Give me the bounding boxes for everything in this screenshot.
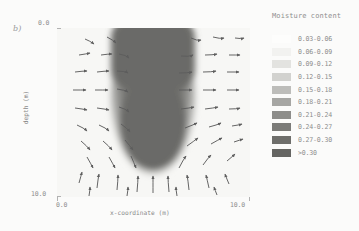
legend-entry: 0.03-0.06	[272, 33, 358, 46]
legend-entry-label: 0.27-0.30	[298, 136, 332, 144]
legend-color-swatch	[272, 136, 291, 144]
legend-entry: 0.27-0.30	[272, 134, 358, 147]
legend-color-swatch	[272, 149, 291, 157]
legend-entry: 0.09-0.12	[272, 58, 358, 71]
legend-color-swatch	[272, 123, 291, 131]
legend-entry-list: 0.03-0.060.06-0.090.09-0.120.12-0.150.15…	[272, 33, 358, 159]
x-axis-tick-right: 10.0	[230, 201, 245, 209]
contour-vector-plot	[57, 28, 250, 197]
legend-entry-label: 0.24-0.27	[298, 123, 332, 131]
legend-entry-label: 0.12-0.15	[298, 73, 332, 81]
legend-color-swatch	[272, 86, 291, 94]
legend-title: Moisture content	[272, 12, 358, 20]
legend-entry: 0.24-0.27	[272, 121, 358, 134]
legend-color-swatch	[272, 60, 291, 68]
plot-area	[57, 28, 250, 197]
panel-label: b)	[13, 24, 22, 33]
moisture-content-figure: b)	[0, 0, 359, 231]
legend-entry: 0.15-0.18	[272, 83, 358, 96]
legend-entry-label: 0.18-0.21	[298, 98, 332, 106]
legend-entry-label: 0.21-0.24	[298, 111, 332, 119]
legend-entry: 0.21-0.24	[272, 109, 358, 122]
legend-color-swatch	[272, 73, 291, 81]
y-axis-label: depth (m)	[22, 78, 29, 138]
x-axis-tick-left: 0.0	[56, 201, 67, 209]
legend-entry-label: 0.09-0.12	[298, 60, 332, 68]
x-axis-label: x-coordinate (m)	[110, 209, 170, 216]
legend-color-swatch	[272, 98, 291, 106]
legend: Moisture content 0.03-0.060.06-0.090.09-…	[272, 12, 358, 159]
legend-color-swatch	[272, 35, 291, 43]
y-axis-tick-bottom: 10.0	[31, 190, 46, 198]
legend-entry: 0.12-0.15	[272, 71, 358, 84]
legend-color-swatch	[272, 111, 291, 119]
legend-entry: 0.18-0.21	[272, 96, 358, 109]
tickmark-y-top	[57, 28, 61, 29]
legend-color-swatch	[272, 48, 291, 56]
legend-entry: 0.06-0.09	[272, 46, 358, 59]
legend-entry-label: 0.03-0.06	[298, 35, 332, 43]
legend-entry-label: >0.30	[298, 149, 317, 157]
tickmark-x-right	[249, 197, 250, 201]
legend-entry-label: 0.15-0.18	[298, 86, 332, 94]
legend-entry: >0.30	[272, 146, 358, 159]
legend-entry-label: 0.06-0.09	[298, 48, 332, 56]
y-axis-tick-top: 0.0	[38, 19, 49, 27]
